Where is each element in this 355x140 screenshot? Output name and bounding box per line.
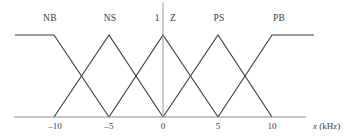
curve-pb [218, 35, 314, 117]
x-tick-label-pos10: 10 [268, 122, 277, 131]
set-label-pb: PB [273, 14, 285, 24]
set-label-ns: NS [104, 14, 117, 24]
curve-ns [54, 35, 163, 117]
set-label-nb: NB [43, 14, 57, 24]
set-label-z: Z [170, 14, 176, 24]
x-tick-label-neg5: –5 [105, 122, 114, 131]
x-tick-label-pos5: 5 [216, 122, 221, 131]
x-axis-unit: (kHz) [319, 121, 340, 131]
membership-curves [15, 35, 314, 117]
fuzzy-membership-figure: NB NS 1 Z PS PB –10 –5 0 5 10 x (kHz) [0, 0, 355, 140]
x-tick-label-zero: 0 [161, 122, 166, 131]
peak-value-label: 1 [155, 14, 160, 24]
curve-ps [163, 35, 272, 117]
x-axis-title: x (kHz) [313, 122, 340, 131]
x-tick-label-neg10: –10 [48, 122, 62, 131]
set-label-ps: PS [213, 14, 224, 24]
